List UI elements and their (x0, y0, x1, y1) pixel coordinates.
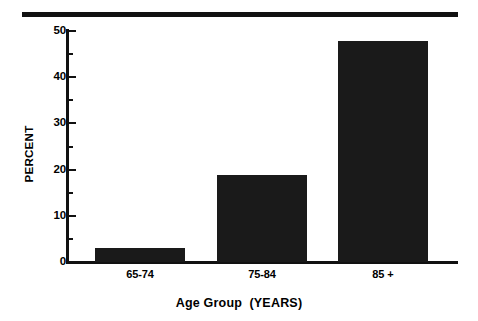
y-axis-tick-label: 0 (26, 256, 66, 268)
x-axis-tick-label: 85 + (338, 268, 428, 280)
bar-85 (338, 41, 428, 262)
x-axis-title: Age Group (YEARS) (0, 296, 478, 310)
bar-chart-figure: 01020304050 PERCENT 65-7475-8485 + Age G… (0, 0, 478, 321)
bar-7584 (217, 175, 307, 262)
x-axis-tick-label: 65-74 (95, 268, 185, 280)
plot-area (68, 31, 458, 262)
y-axis-tick-label: 40 (26, 71, 66, 83)
y-axis-tick-label: 10 (26, 210, 66, 222)
y-axis-title: PERCENT (23, 112, 35, 196)
bar-6574 (95, 248, 185, 262)
top-divider-rule (22, 12, 458, 17)
x-axis-tick-label: 75-84 (217, 268, 307, 280)
y-axis-tick-label: 50 (26, 25, 66, 37)
